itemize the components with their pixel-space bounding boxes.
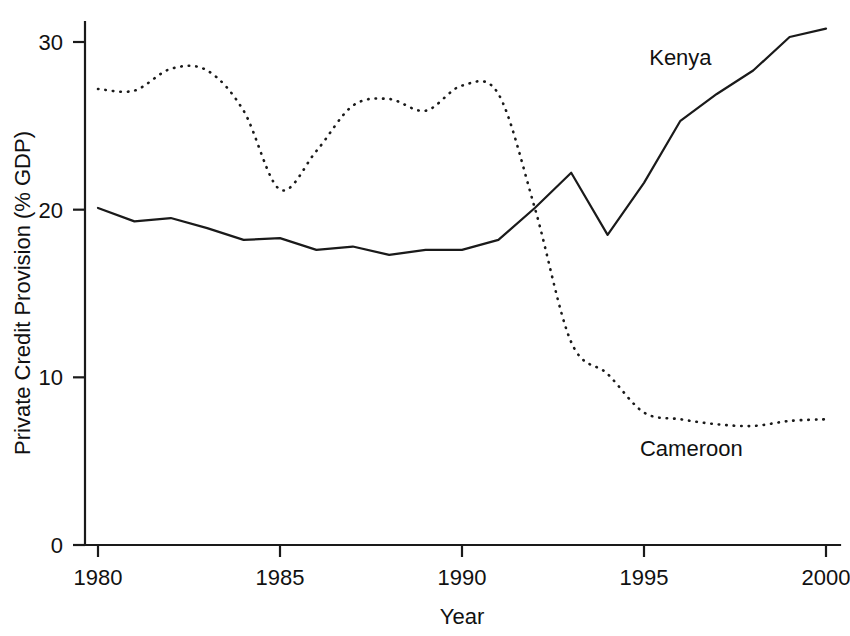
y-tick-label: 10 [39,365,63,390]
y-axis-title: Private Credit Provision (% GDP) [10,131,35,455]
line-chart: 0102030 19801985199019952000 KenyaCamero… [0,0,850,636]
y-axis-ticks: 0102030 [39,30,85,558]
series-line-cameroon [98,66,826,426]
series-labels-group: KenyaCameroon [640,45,743,461]
series-label-kenya: Kenya [649,45,712,70]
chart-page: 0102030 19801985199019952000 KenyaCamero… [0,0,850,636]
series-label-cameroon: Cameroon [640,436,743,461]
x-tick-label: 2000 [802,565,850,590]
y-tick-label: 0 [51,533,63,558]
y-tick-label: 30 [39,30,63,55]
x-tick-label: 1990 [438,565,487,590]
series-line-kenya [98,29,826,255]
x-axis-title: Year [440,604,484,629]
x-tick-label: 1980 [74,565,123,590]
y-tick-label: 20 [39,198,63,223]
x-tick-label: 1995 [620,565,669,590]
x-axis-ticks: 19801985199019952000 [74,545,850,590]
x-tick-label: 1985 [256,565,305,590]
data-series-group [98,29,826,427]
